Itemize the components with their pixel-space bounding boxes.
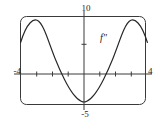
plot-frame — [21, 17, 146, 105]
x-axis-max-label: 4 — [148, 67, 162, 76]
y-axis-max-label: 10 — [76, 4, 96, 13]
graph-figure: 10 -5 -4 4 f″ — [0, 0, 166, 124]
curve-annotation-label: f″ — [100, 33, 107, 42]
plot-canvas — [0, 0, 166, 124]
x-axis-min-label: -4 — [5, 67, 21, 76]
y-axis-min-label: -5 — [75, 110, 95, 119]
